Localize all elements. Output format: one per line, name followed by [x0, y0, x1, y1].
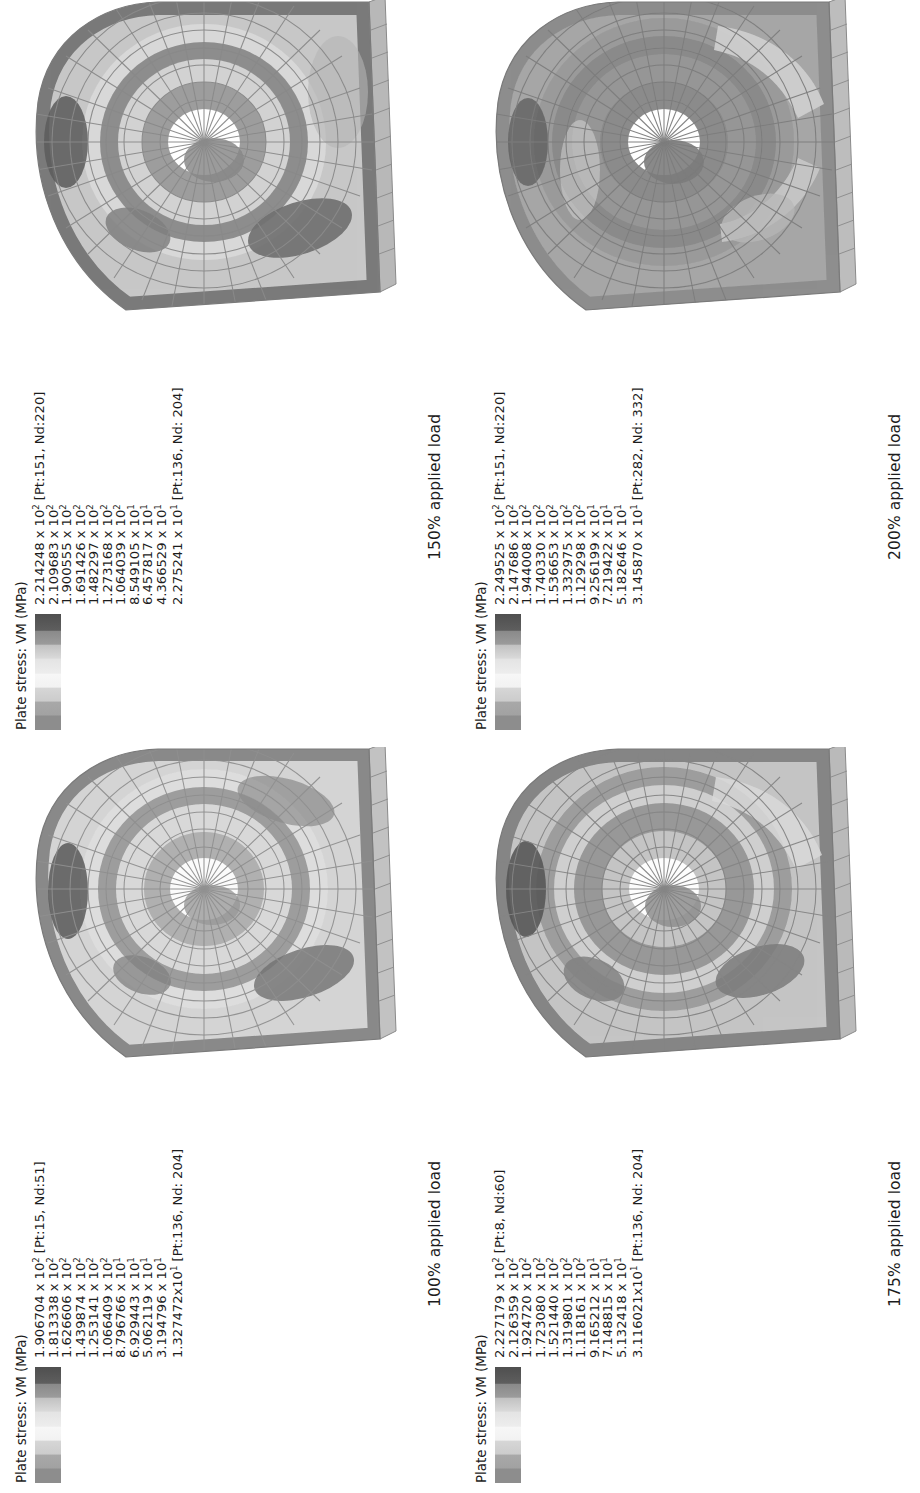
legend-tick-exponent: 1 — [153, 1257, 163, 1262]
legend-tick: 4.366529 x 101 — [155, 388, 169, 606]
legend-tick: 2.275241 x 101 [Pt:136, Nd: 204] — [171, 388, 185, 606]
legend-tick-note: [Pt:151, Nd:220] — [32, 392, 47, 505]
legend-100: Plate stress: VM (MPa) 1.906704 x 102 [P… — [14, 1149, 185, 1483]
legend-tick: 1.900555 x 102 — [60, 388, 74, 606]
colorbar-200 — [495, 614, 521, 730]
legend-tick: 1.064039 x 102 — [114, 388, 128, 606]
mesh-plot-200 — [468, 0, 868, 322]
legend-tick-mantissa: 4.366529 x 10 — [154, 510, 169, 605]
panel-175-caption: 175% applied load — [886, 1161, 904, 1307]
legend-tick-note: [Pt:15, Nd:51] — [32, 1161, 47, 1257]
legend-ticks-175: 2.227179 x 102 [Pt:8, Nd:60]2.126359 x 1… — [493, 1149, 645, 1358]
panel-100-caption: 100% applied load — [426, 1161, 444, 1307]
colorbar-175 — [495, 1367, 521, 1483]
legend-tick: 3.194796 x 101 — [155, 1149, 169, 1358]
legend-tick: 7.148815 x 101 — [601, 1149, 615, 1358]
legend-tick-exponent: 2 — [531, 1257, 541, 1262]
legend-tick: 2.227179 x 102 [Pt:8, Nd:60] — [493, 1149, 507, 1358]
legend-tick-exponent: 2 — [85, 1257, 95, 1262]
legend-tick: 6.457817 x 101 — [141, 388, 155, 606]
legend-ticks-200: 2.249525 x 102 [Pt:151, Nd:220]2.147686 … — [493, 388, 645, 606]
legend-tick-exponent: 1 — [585, 504, 595, 509]
legend-tick: 1.253141 x 102 — [87, 1149, 101, 1358]
legend-tick-mantissa: 5.132418 x 10 — [614, 1263, 629, 1358]
legend-tick-exponent: 1 — [599, 1257, 609, 1262]
legend-tick-note: [Pt:136, Nd: 204] — [630, 1149, 645, 1266]
legend-title-100: Plate stress: VM (MPa) — [14, 1149, 29, 1483]
legend-tick-exponent: 2 — [491, 504, 501, 509]
legend-tick-exponent: 2 — [31, 1257, 41, 1262]
legend-tick-exponent: 1 — [169, 1266, 179, 1271]
legend-tick: 5.182646 x 101 — [615, 388, 629, 606]
legend-tick-mantissa: 2.275241 x 10 — [170, 510, 185, 605]
legend-tick-note: [Pt:136, Nd: 204] — [170, 1149, 185, 1266]
legend-title-150: Plate stress: VM (MPa) — [14, 388, 29, 731]
legend-tick-exponent: 1 — [153, 504, 163, 509]
legend-175: Plate stress: VM (MPa) 2.227179 x 102 [P… — [474, 1149, 645, 1483]
legend-tick-note: [Pt:282, Nd: 332] — [630, 388, 645, 505]
legend-tick: 1.521440 x 102 — [547, 1149, 561, 1358]
legend-tick-exponent: 2 — [31, 504, 41, 509]
legend-tick-exponent: 2 — [71, 1257, 81, 1262]
legend-tick: 2.214248 x 102 [Pt:151, Nd:220] — [33, 388, 47, 606]
legend-tick-exponent: 1 — [629, 504, 639, 509]
panel-150-applied-load: 150% applied load Plate stress: VM (MPa)… — [0, 0, 460, 746]
legend-tick-exponent: 1 — [112, 1257, 122, 1262]
legend-tick: 7.219422 x 101 — [601, 388, 615, 606]
legend-tick-exponent: 2 — [491, 1257, 501, 1262]
legend-tick-exponent: 1 — [599, 504, 609, 509]
legend-tick-exponent: 2 — [572, 1257, 582, 1262]
legend-tick-mantissa: 3.194796 x 10 — [154, 1263, 169, 1358]
legend-tick-exponent: 1 — [125, 504, 135, 509]
legend-tick: 2.249525 x 102 [Pt:151, Nd:220] — [493, 388, 507, 606]
legend-tick-note: [Pt:8, Nd:60] — [492, 1170, 507, 1258]
legend-tick-exponent: 2 — [531, 504, 541, 509]
legend-tick-exponent: 1 — [629, 1266, 639, 1271]
panel-200-caption: 200% applied load — [886, 414, 904, 560]
legend-tick-exponent: 1 — [585, 1257, 595, 1262]
legend-tick-mantissa: 5.182646 x 10 — [614, 510, 629, 605]
legend-title-175: Plate stress: VM (MPa) — [474, 1149, 489, 1483]
mesh-plot-150 — [8, 0, 408, 322]
panel-100-applied-load: 100% applied load Plate stress: VM (MPa)… — [0, 747, 460, 1493]
legend-tick: 3.116021x101 [Pt:136, Nd: 204] — [631, 1149, 645, 1358]
legend-tick-exponent: 2 — [98, 504, 108, 509]
figure-page: 150% applied load Plate stress: VM (MPa)… — [0, 0, 920, 1493]
legend-tick-exponent: 2 — [58, 504, 68, 509]
legend-title-200: Plate stress: VM (MPa) — [474, 388, 489, 731]
legend-tick-exponent: 2 — [545, 504, 555, 509]
legend-ticks-100: 1.906704 x 102 [Pt:15, Nd:51]1.813338 x … — [33, 1149, 185, 1358]
panel-175-applied-load: 175% applied load Plate stress: VM (MPa)… — [460, 747, 920, 1493]
legend-tick-exponent: 2 — [71, 504, 81, 509]
legend-tick-exponent: 1 — [139, 1257, 149, 1262]
legend-tick-exponent: 2 — [518, 1257, 528, 1262]
legend-tick-exponent: 1 — [139, 504, 149, 509]
legend-tick: 1.906704 x 102 [Pt:15, Nd:51] — [33, 1149, 47, 1358]
legend-tick: 1.536653 x 102 — [547, 388, 561, 606]
legend-tick-exponent: 2 — [112, 504, 122, 509]
legend-tick-exponent: 2 — [98, 1257, 108, 1262]
legend-tick: 1.327472x101 [Pt:136, Nd: 204] — [171, 1149, 185, 1358]
colorbar-150 — [35, 614, 61, 730]
mesh-plot-100 — [8, 747, 408, 1069]
legend-tick-exponent: 1 — [613, 1257, 623, 1262]
legend-tick-exponent: 1 — [169, 504, 179, 509]
colorbar-100 — [35, 1367, 61, 1483]
legend-150: Plate stress: VM (MPa) 2.214248 x 102 [P… — [14, 388, 185, 731]
legend-tick-exponent: 2 — [44, 1257, 54, 1262]
legend-200: Plate stress: VM (MPa) 2.249525 x 102 [P… — [474, 388, 645, 731]
legend-tick: 1.118161 x 102 — [574, 1149, 588, 1358]
legend-tick-exponent: 2 — [504, 1257, 514, 1262]
legend-tick: 3.145870 x 101 [Pt:282, Nd: 332] — [631, 388, 645, 606]
legend-tick-mantissa: 1.327472x10 — [170, 1271, 185, 1358]
legend-tick-note: [Pt:136, Nd: 204] — [170, 388, 185, 505]
legend-tick-note: [Pt:151, Nd:220] — [492, 392, 507, 505]
panel-150-caption: 150% applied load — [426, 414, 444, 560]
legend-tick-exponent: 2 — [572, 504, 582, 509]
legend-tick-exponent: 2 — [545, 1257, 555, 1262]
legend-ticks-150: 2.214248 x 102 [Pt:151, Nd:220]2.109683 … — [33, 388, 185, 606]
legend-tick-exponent: 2 — [558, 1257, 568, 1262]
legend-tick-mantissa: 3.145870 x 10 — [630, 510, 645, 605]
legend-tick: 1.626606 x 102 — [60, 1149, 74, 1358]
legend-tick: 1.129298 x 102 — [574, 388, 588, 606]
